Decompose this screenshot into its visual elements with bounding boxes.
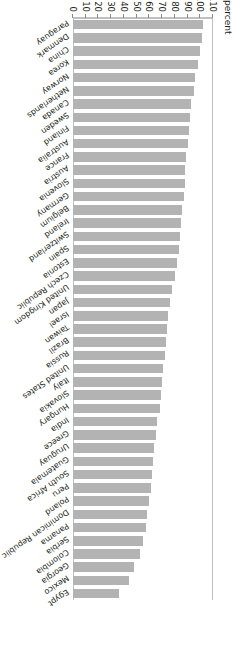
category-slot: Switzerland (0, 230, 72, 243)
category-slot: Russia (0, 349, 72, 362)
bar (73, 271, 175, 281)
bar-slot (73, 44, 213, 57)
bar-slot (73, 362, 213, 375)
category-slot: Egypt (0, 587, 72, 600)
bar (73, 430, 156, 440)
bar (73, 351, 165, 361)
value-axis-tick-label: 30 (107, 1, 116, 12)
value-axis-tick-label: 20 (94, 1, 103, 12)
bar (73, 165, 185, 175)
category-slot: Sweden (0, 111, 72, 124)
category-slot: Colombia (0, 547, 72, 560)
bar-slot (73, 177, 213, 190)
bar (73, 99, 191, 109)
category-slot: Germany (0, 190, 72, 203)
bar-slot (73, 137, 213, 150)
bar (73, 457, 153, 467)
category-slot: Italy (0, 375, 72, 388)
bar (73, 33, 202, 43)
category-slot: Taiwan (0, 322, 72, 335)
category-slot: Slovenia (0, 177, 72, 190)
bar-slot (73, 58, 213, 71)
bar-slot (73, 71, 213, 84)
category-slot: Greece (0, 428, 72, 441)
bar (73, 404, 160, 414)
bar-slot (73, 322, 213, 335)
bar-slot (73, 587, 213, 600)
value-axis-tick-label: 10 (81, 1, 90, 12)
category-slot: Japan (0, 296, 72, 309)
bar-slot (73, 428, 213, 441)
category-slot: Spain (0, 243, 72, 256)
bar (73, 417, 157, 427)
bar-slot (73, 309, 213, 322)
bar-slot (73, 547, 213, 560)
bar (73, 285, 172, 295)
bar (73, 589, 119, 599)
bar (73, 443, 154, 453)
category-slot: Korea (0, 58, 72, 71)
bar (73, 324, 167, 334)
value-axis-tick-label: 50 (132, 1, 141, 12)
bar-slot (73, 389, 213, 402)
category-slot: Norway (0, 71, 72, 84)
bar (73, 86, 194, 96)
bar (73, 179, 185, 189)
bar (73, 20, 203, 30)
bar (73, 46, 200, 56)
bar (73, 562, 134, 572)
bar (73, 192, 184, 202)
category-slot: Serbia (0, 534, 72, 547)
bars-container (73, 18, 213, 600)
bar (73, 483, 151, 493)
category-slot: India (0, 415, 72, 428)
bar (73, 218, 181, 228)
bar-slot (73, 111, 213, 124)
bar-slot (73, 296, 213, 309)
bar-slot (73, 481, 213, 494)
bar-slot (73, 269, 213, 282)
category-slot: Estonia (0, 256, 72, 269)
category-slot: Hungary (0, 402, 72, 415)
category-slot: Slovakia (0, 389, 72, 402)
bar-slot (73, 521, 213, 534)
category-labels: ParaguayDenmarkChinaKoreaNorwayNetherlan… (0, 18, 72, 600)
category-slot: China (0, 44, 72, 57)
bar (73, 470, 152, 480)
bar (73, 364, 163, 374)
bar (73, 245, 179, 255)
bar-slot (73, 349, 213, 362)
bar (73, 510, 147, 520)
bar-slot (73, 415, 213, 428)
bar-slot (73, 164, 213, 177)
category-slot: United States (0, 362, 72, 375)
bar (73, 523, 146, 533)
bar-slot (73, 217, 213, 230)
bar-slot (73, 84, 213, 97)
value-axis-tick-label: 110 (209, 0, 218, 12)
value-axis-tick-label: 0 (69, 7, 78, 12)
category-slot: Georgia (0, 561, 72, 574)
bar (73, 536, 143, 546)
category-slot: Panama (0, 521, 72, 534)
category-slot: Czech Republic (0, 269, 72, 282)
category-slot: Denmark (0, 31, 72, 44)
bar-slot (73, 561, 213, 574)
bar (73, 496, 149, 506)
bar (73, 113, 190, 123)
value-axis-tick-label: 60 (145, 1, 154, 12)
category-slot: Guatemala (0, 455, 72, 468)
value-axis: 0102030405060708090100110 (73, 0, 213, 18)
bar-slot (73, 230, 213, 243)
bar-slot (73, 375, 213, 388)
bar-slot (73, 574, 213, 587)
bar-slot (73, 97, 213, 110)
category-slot: Peru (0, 481, 72, 494)
bar-slot (73, 150, 213, 163)
bar-slot (73, 243, 213, 256)
bar-slot (73, 534, 213, 547)
bar-slot (73, 256, 213, 269)
category-slot: Belgium (0, 203, 72, 216)
value-axis-tick-label: 90 (183, 1, 192, 12)
bar (73, 232, 180, 242)
